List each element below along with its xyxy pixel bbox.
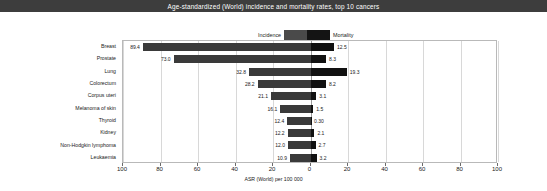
bar-value-mortality: 12.5 [337, 43, 360, 51]
bar-mortality [311, 80, 326, 88]
legend-swatch-incidence [284, 30, 307, 40]
bar-value-mortality: 3.2 [320, 154, 343, 162]
bar-row: 12.40.30 [123, 115, 496, 127]
bar-value-incidence: 16.1 [254, 105, 277, 113]
bar-mortality [311, 141, 316, 149]
bar-value-mortality: 2.7 [319, 141, 342, 149]
bar-row: 12.22.1 [123, 127, 496, 139]
legend-label-incidence: Incidence [258, 32, 281, 38]
x-axis-title: ASR (World) per 100 000 [0, 176, 547, 182]
category-label: Kidney [100, 128, 116, 136]
bar-value-mortality: 1.5 [316, 105, 339, 113]
page-title: Age-standardized (World) incidence and m… [168, 3, 380, 10]
bar-mortality [311, 117, 312, 125]
x-axis-tick-label: 0 [308, 166, 311, 172]
bar-rows: 89.412.573.08.332.819.328.28.221.13.116.… [123, 41, 496, 162]
category-label: Leukaemia [91, 153, 116, 161]
category-label: Prostate [97, 54, 116, 62]
x-axis-tick-label: 80 [156, 166, 163, 172]
bar-row: 32.819.3 [123, 66, 496, 78]
bar-value-incidence: 12.4 [261, 117, 284, 125]
bar-row: 73.08.3 [123, 53, 496, 65]
x-axis-tick-label: 80 [456, 166, 463, 172]
bar-incidence [249, 68, 311, 76]
bar-value-incidence: 12.2 [262, 129, 285, 137]
bar-row: 89.412.5 [123, 41, 496, 53]
bar-row: 28.28.2 [123, 78, 496, 90]
bar-value-mortality: 3.1 [319, 92, 342, 100]
bar-mortality [311, 105, 314, 113]
bar-row: 21.13.1 [123, 90, 496, 102]
bar-value-mortality: 19.3 [350, 68, 373, 76]
x-axis-tick-label: 20 [269, 166, 276, 172]
bar-incidence [288, 141, 311, 149]
bar-value-incidence: 32.8 [223, 68, 246, 76]
plot-area: 89.412.573.08.332.819.328.28.221.13.116.… [122, 40, 497, 163]
category-label: Melanoma of skin [75, 104, 116, 112]
bar-value-mortality: 8.3 [329, 55, 352, 63]
x-axis-tick-label: 100 [117, 166, 127, 172]
bar-value-mortality: 0.30 [314, 117, 337, 125]
bar-value-incidence: 28.2 [232, 80, 255, 88]
bar-incidence [287, 117, 310, 125]
bar-value-mortality: 8.2 [329, 80, 352, 88]
bar-incidence [290, 154, 310, 162]
bar-value-incidence: 73.0 [148, 55, 171, 63]
bar-value-incidence: 10.9 [264, 154, 287, 162]
bar-incidence [280, 105, 310, 113]
category-label: Thyroid [99, 116, 116, 124]
category-label: Breast [101, 42, 116, 50]
category-axis-labels: BreastProstateLungColorectumCorpus uteri… [0, 40, 119, 163]
bar-incidence [174, 55, 311, 63]
bar-value-incidence: 89.4 [117, 43, 140, 51]
x-axis: 10080604020020406080100 [122, 163, 497, 175]
bar-mortality [311, 154, 317, 162]
bar-mortality [311, 43, 334, 51]
category-label: Corpus uteri [88, 91, 116, 99]
legend-swatch [284, 30, 330, 40]
x-axis-tick-label: 40 [381, 166, 388, 172]
bar-row: 12.02.7 [123, 139, 496, 151]
x-axis-tick-label: 60 [194, 166, 201, 172]
bar-incidence [271, 92, 311, 100]
x-axis-tick-label: 40 [231, 166, 238, 172]
bar-incidence [143, 43, 311, 51]
bar-incidence [288, 129, 311, 137]
bar-row: 16.11.5 [123, 103, 496, 115]
bar-mortality [311, 92, 317, 100]
bar-value-incidence: 21.1 [245, 92, 268, 100]
gridline [498, 41, 499, 162]
bar-value-incidence: 12.0 [262, 141, 285, 149]
bar-mortality [311, 68, 347, 76]
chart-title-bar: Age-standardized (World) incidence and m… [0, 0, 547, 12]
x-axis-tick-label: 100 [492, 166, 502, 172]
bar-value-mortality: 2.1 [317, 129, 340, 137]
legend-label-mortality: Mortality [333, 32, 353, 38]
category-label: Non-Hodgkin lymphoma [60, 141, 116, 149]
bar-mortality [311, 55, 327, 63]
x-axis-tick-label: 20 [344, 166, 351, 172]
x-axis-tick-label: 60 [419, 166, 426, 172]
bar-incidence [258, 80, 311, 88]
category-label: Lung [104, 67, 116, 75]
category-label: Colorectum [89, 79, 116, 87]
legend-swatch-mortality [307, 30, 330, 40]
bar-mortality [311, 129, 315, 137]
